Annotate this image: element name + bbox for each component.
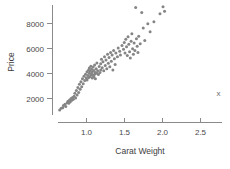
data-point [136, 51, 139, 54]
data-point [95, 62, 98, 65]
data-point [129, 57, 132, 60]
data-point [127, 35, 130, 38]
data-point [79, 88, 82, 91]
data-point [137, 35, 140, 38]
data-point [113, 57, 116, 60]
data-point [124, 52, 127, 55]
y-axis-ticks [47, 24, 53, 99]
data-point [136, 45, 139, 48]
y-tick-label: 2000 [26, 95, 44, 104]
data-point [112, 49, 115, 52]
y-axis-title: Price [6, 52, 16, 72]
data-point [106, 53, 109, 56]
y-tick-label: 6000 [26, 45, 44, 54]
data-point [119, 53, 122, 56]
data-point [135, 37, 138, 40]
data-point [103, 55, 106, 58]
x-axis-ticks [87, 118, 201, 123]
data-point [77, 91, 80, 94]
data-point [78, 83, 81, 86]
data-point [114, 63, 117, 66]
data-point [142, 27, 145, 30]
data-point [108, 65, 111, 68]
data-point [118, 50, 121, 53]
data-point [158, 12, 161, 15]
data-point [134, 6, 137, 9]
data-point [102, 69, 105, 72]
data-point [139, 42, 142, 45]
data-point [107, 62, 110, 65]
data-point [100, 58, 103, 61]
data-point [152, 20, 155, 23]
data-point [109, 51, 112, 54]
data-point [101, 60, 104, 63]
plot-canvas: 2000400060008000 1.01.52.02.5 x Price Ca… [0, 0, 230, 169]
y-axis-group: 2000400060008000 [26, 5, 52, 115]
data-point [132, 53, 135, 56]
data-point [108, 56, 111, 59]
data-point [124, 38, 127, 41]
data-points-group [58, 5, 166, 111]
data-point [125, 45, 128, 48]
data-point [126, 54, 129, 57]
data-point [110, 60, 113, 63]
data-point [130, 40, 133, 43]
data-point [162, 5, 165, 8]
data-point [80, 85, 83, 88]
data-point [133, 49, 136, 52]
y-tick-label: 4000 [26, 70, 44, 79]
data-point [149, 30, 152, 33]
data-point [122, 48, 125, 51]
data-point [104, 64, 107, 67]
data-point [116, 55, 119, 58]
data-point [74, 97, 77, 100]
data-point [140, 11, 143, 14]
data-point [128, 50, 131, 53]
data-point [94, 77, 97, 80]
data-point [133, 42, 136, 45]
plot-annotation: x [217, 89, 221, 98]
x-axis-tick-labels: 1.01.52.02.5 [81, 128, 207, 137]
data-point [143, 39, 146, 42]
data-point [82, 82, 85, 85]
data-point [123, 41, 126, 44]
data-point [117, 47, 120, 50]
x-axis-group: 1.01.52.02.5 [58, 118, 222, 138]
y-tick-label: 8000 [26, 20, 44, 29]
data-point [101, 66, 104, 69]
x-tick-label: 1.0 [81, 128, 93, 137]
data-point [105, 67, 108, 70]
scatter-plot-figure: 2000400060008000 1.01.52.02.5 x Price Ca… [0, 0, 230, 169]
data-point [114, 52, 117, 55]
data-point [76, 93, 79, 96]
data-point [111, 68, 114, 71]
x-tick-label: 2.0 [157, 128, 169, 137]
data-point [105, 58, 108, 61]
data-point [163, 10, 166, 13]
x-tick-label: 1.5 [119, 128, 131, 137]
data-point [146, 22, 149, 25]
data-point [64, 105, 67, 108]
x-axis-title: Carat Weight [115, 146, 165, 156]
y-axis-tick-labels: 2000400060008000 [26, 20, 44, 104]
data-point [111, 53, 114, 56]
data-point [120, 44, 123, 47]
data-point [98, 65, 101, 68]
annotations-group: x [217, 89, 221, 98]
data-point [130, 32, 133, 35]
data-point [127, 43, 130, 46]
x-tick-label: 2.5 [195, 128, 207, 137]
